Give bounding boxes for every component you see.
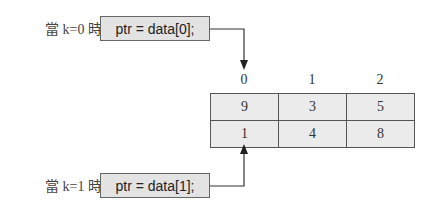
arrow-k0 xyxy=(210,29,244,60)
pointer-arrows xyxy=(0,0,430,210)
arrowhead-up-icon xyxy=(240,144,248,154)
arrow-k1 xyxy=(210,154,244,186)
arrowhead-down-icon xyxy=(240,60,248,70)
